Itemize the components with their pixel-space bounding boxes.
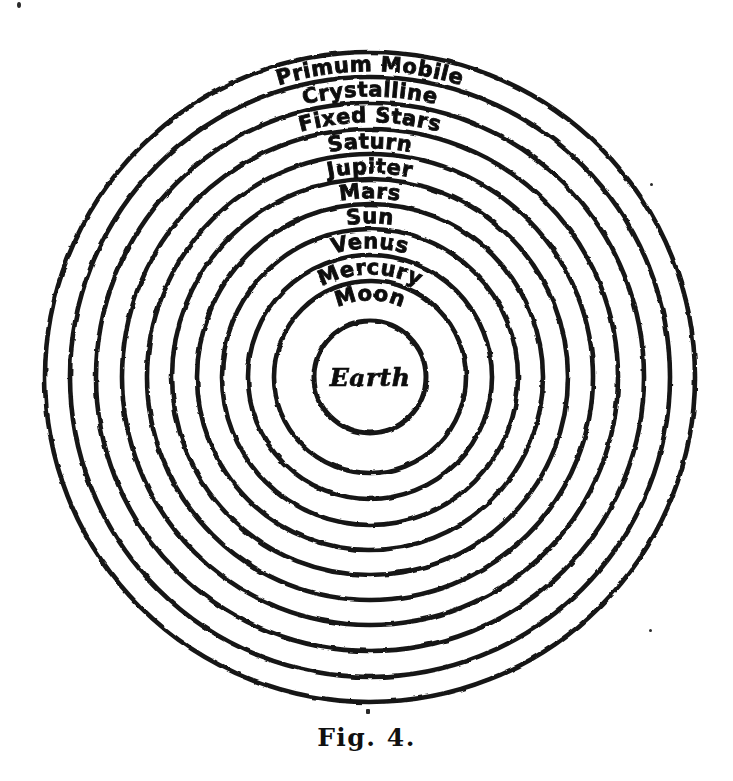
figure-caption: Fig. 4.	[0, 723, 733, 752]
ink-speck-right	[650, 183, 653, 186]
sphere-label-textpath: Sun	[345, 204, 396, 230]
sphere-label: Saturn	[326, 129, 414, 157]
sphere-label-textpath: Mars	[338, 179, 403, 205]
ink-speck-top-left	[17, 2, 21, 8]
ink-tick-bottom-center	[366, 709, 370, 714]
sphere-label: Moon	[332, 281, 409, 312]
sphere-label: Sun	[345, 204, 396, 230]
center-label-group: Earth	[329, 363, 411, 392]
ptolemaic-spheres-diagram: Primum MobileCrystallineFixed StarsSatur…	[0, 0, 733, 781]
earth-center-label: Earth	[329, 363, 411, 392]
sphere-label-textpath: Saturn	[326, 129, 414, 157]
sphere-label: Mars	[338, 179, 403, 205]
sphere-label-textpath: Moon	[332, 281, 409, 312]
ink-speck-bottom-right	[649, 629, 652, 632]
concentric-spheres-figure: Primum MobileCrystallineFixed StarsSatur…	[0, 0, 733, 781]
